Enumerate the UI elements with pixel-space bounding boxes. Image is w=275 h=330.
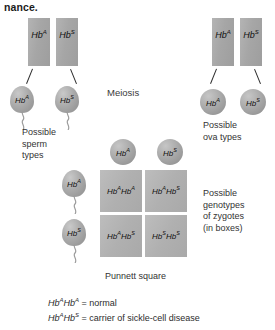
punnett-column-gamete-S-label: HbS <box>157 147 183 158</box>
sickle-cell-inheritance-figure: nance. HbA HbS HbA HbS Possible sperm ty… <box>0 0 275 330</box>
punnett-column-gamete-S: HbS <box>157 139 183 165</box>
legend-item-carrier: HbAHbS = carrier of sickle-cell disease <box>48 312 200 323</box>
meiosis-connector-line <box>26 69 33 84</box>
punnett-column-gamete-A-label: HbA <box>110 147 136 158</box>
sperm-gamete-A-label: HbA <box>10 94 34 105</box>
sperm-head: HbA <box>62 170 86 197</box>
sperm-head: HbA <box>10 86 34 113</box>
mother-chromosome-S: HbS <box>240 18 262 66</box>
punnett-column-gamete-A: HbA <box>110 139 136 165</box>
ovum-gamete-S: HbS <box>240 89 266 115</box>
punnett-cell-genotype: HbAHbA <box>100 185 142 196</box>
punnett-cell-2-1: HbAHbS <box>100 215 142 257</box>
caption-possible-sperm-types: Possible sperm types <box>22 127 82 162</box>
punnett-cell-genotype: HbAHbS <box>100 230 142 241</box>
meiosis-connector-line <box>70 69 77 84</box>
sperm-tail-icon <box>71 244 79 263</box>
caption-line: ova types <box>203 132 273 144</box>
father-chromosome-S-label: HbS <box>56 29 78 40</box>
legend-meaning: = normal <box>82 298 117 308</box>
meiosis-connector-line <box>210 69 217 84</box>
caption-line: Possible <box>203 120 273 132</box>
caption-line: types <box>22 150 82 162</box>
sperm-tail-icon <box>71 195 79 214</box>
ovum-gamete-S-label: HbS <box>240 97 266 108</box>
punnett-cell-genotype: HbAHbS <box>145 185 187 196</box>
punnett-row-gamete-A-label: HbA <box>62 178 86 189</box>
ovum-gamete-A-label: HbA <box>200 97 226 108</box>
punnett-cell-2-2: HbSHbS <box>145 215 187 257</box>
legend-meaning: = carrier of sickle-cell disease <box>82 313 200 323</box>
punnett-row-gamete-S: HbS <box>62 219 88 263</box>
caption-line: (in boxes) <box>203 223 275 235</box>
caption-line: Possible <box>22 127 82 139</box>
caption-line: Possible <box>203 188 275 200</box>
father-chromosome-A: HbA <box>28 18 50 66</box>
mother-chromosome-A: HbA <box>212 18 234 66</box>
caption-possible-genotypes: Possible genotypes of zygotes (in boxes) <box>203 188 275 234</box>
sperm-head: HbS <box>62 219 86 246</box>
sperm-head: HbS <box>55 86 79 113</box>
meiosis-label: Meiosis <box>107 87 139 98</box>
punnett-row-gamete-S-label: HbS <box>62 227 86 238</box>
father-chromosome-S: HbS <box>56 18 78 66</box>
sperm-gamete-S-label: HbS <box>55 94 79 105</box>
mother-chromosome-S-label: HbS <box>240 29 262 40</box>
punnett-cell-genotype: HbSHbS <box>145 230 187 241</box>
page-title-fragment: nance. <box>4 1 38 13</box>
father-chromosome-A-label: HbA <box>28 29 50 40</box>
sperm-gamete-S: HbS <box>55 86 81 130</box>
legend-item-normal: HbAHbA = normal <box>48 297 117 308</box>
mother-chromosome-A-label: HbA <box>212 29 234 40</box>
punnett-cell-1-1: HbAHbA <box>100 170 142 212</box>
caption-line: sperm <box>22 139 82 151</box>
punnett-row-gamete-A: HbA <box>62 170 88 214</box>
caption-possible-ova-types: Possible ova types <box>203 120 273 143</box>
sperm-gamete-A: HbA <box>10 86 36 130</box>
punnett-square-label: Punnett square <box>105 271 195 283</box>
punnett-cell-1-2: HbAHbS <box>145 170 187 212</box>
meiosis-connector-line <box>254 69 261 84</box>
caption-line: of zygotes <box>203 211 275 223</box>
ovum-gamete-A: HbA <box>200 89 226 115</box>
caption-line: genotypes <box>203 200 275 212</box>
